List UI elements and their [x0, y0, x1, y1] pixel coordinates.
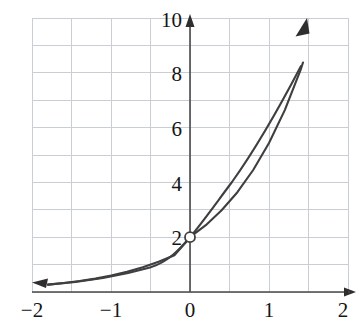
y-tick-label-2: 2: [150, 228, 182, 249]
x-tick-label-2: 2: [326, 300, 360, 321]
open-point-y-intercept: [185, 232, 195, 242]
x-tick-label-neg1: −1: [89, 300, 133, 321]
x-tick-label-1: 1: [247, 300, 291, 321]
x-tick-label-neg2: −2: [10, 300, 54, 321]
x-axis: [32, 288, 356, 297]
y-tick-label-10: 10: [150, 10, 182, 31]
y-tick-label-4: 4: [150, 174, 182, 195]
y-tick-label-6: 6: [150, 119, 182, 140]
y-axis-arrow-icon: [186, 14, 195, 27]
y-tick-label-8: 8: [150, 64, 182, 85]
graph-figure: 10 8 6 4 2 −2 −1 0 1 2: [0, 0, 364, 330]
y-axis: [186, 14, 195, 292]
plot-canvas: [0, 0, 364, 330]
x-tick-label-0: 0: [168, 300, 212, 321]
curve-left-arrow-icon: [32, 278, 48, 288]
curve-right-arrow-icon: [296, 18, 310, 37]
